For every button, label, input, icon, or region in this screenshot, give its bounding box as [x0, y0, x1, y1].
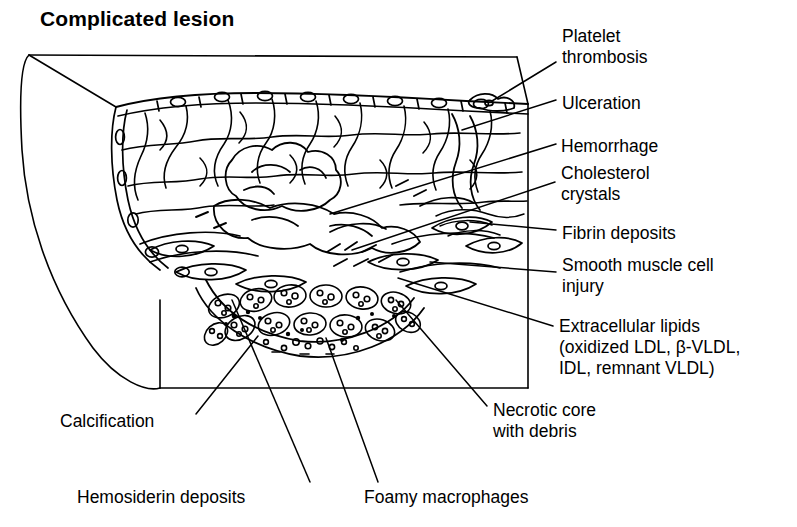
callout-calcification: Calcification — [60, 411, 154, 432]
leader-hemosiderin-deposits — [232, 300, 310, 482]
callout-ulceration: Ulceration — [562, 93, 641, 114]
leader-foamy-macrophages — [326, 338, 378, 482]
endothelium-layer — [116, 93, 528, 116]
leader-ulceration — [462, 100, 556, 130]
leader-necrotic-core — [396, 300, 487, 406]
leader-smooth-muscle-cell-injury — [430, 262, 556, 272]
callout-extracellular-lipids: Extracellular lipids (oxidized LDL, β-VL… — [559, 316, 740, 379]
callout-cholesterol-crystals: Cholesterol crystals — [561, 163, 650, 205]
leader-calcification — [196, 336, 258, 414]
callout-smooth-muscle-cell-injury: Smooth muscle cell injury — [562, 255, 714, 297]
figure-complicated-lesion: Complicated lesion Platelet thrombosis U… — [0, 0, 797, 527]
page-title: Complicated lesion — [40, 7, 234, 31]
callout-necrotic-core: Necrotic core with debris — [493, 400, 596, 442]
callout-platelet-thrombosis: Platelet thrombosis — [562, 26, 648, 68]
callout-foamy-macrophages: Foamy macrophages — [364, 487, 528, 508]
leader-platelet-thrombosis — [492, 62, 556, 101]
extracellular-lipid-droplets — [264, 338, 359, 354]
callout-hemosiderin-deposits: Hemosiderin deposits — [77, 487, 245, 508]
callout-hemorrhage: Hemorrhage — [561, 136, 658, 157]
callout-fibrin-deposits: Fibrin deposits — [562, 223, 676, 244]
fibrous-cap-tissue — [122, 99, 527, 214]
